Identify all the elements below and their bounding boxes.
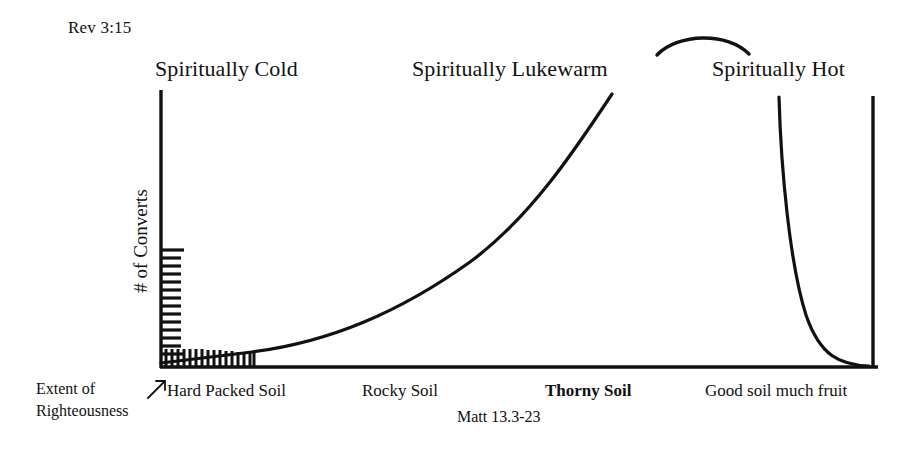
y-axis-ticks: [162, 250, 184, 354]
scripture-reference-bottom: Matt 13.3-23: [457, 408, 541, 426]
category-label-hard-packed-soil: Hard Packed Soil: [167, 381, 286, 401]
x-axis-title: Extent ofRighteousness: [36, 378, 128, 421]
category-label-thorny-soil: Thorny Soil: [545, 381, 631, 401]
zone-label-spiritually-hot: Spiritually Hot: [712, 56, 845, 81]
converts-falling-curve: [779, 97, 869, 366]
scripture-reference-top: Rev 3:15: [68, 18, 131, 38]
y-axis-title: # of Converts: [130, 96, 152, 386]
zone-label-spiritually-lukewarm: Spiritually Lukewarm: [412, 56, 608, 81]
chart-canvas: Rev 3:15 Spiritually Cold Spiritually Lu…: [0, 0, 914, 451]
converts-rising-curve: [161, 94, 612, 363]
category-label-rocky-soil: Rocky Soil: [362, 381, 438, 401]
category-label-good-soil: Good soil much fruit: [705, 381, 847, 401]
x-axis-title-line2: Righteousness: [36, 402, 128, 419]
hot-arc: [657, 38, 749, 55]
x-axis-title-line1: Extent of: [36, 380, 95, 397]
zone-label-spiritually-cold: Spiritually Cold: [155, 56, 298, 81]
